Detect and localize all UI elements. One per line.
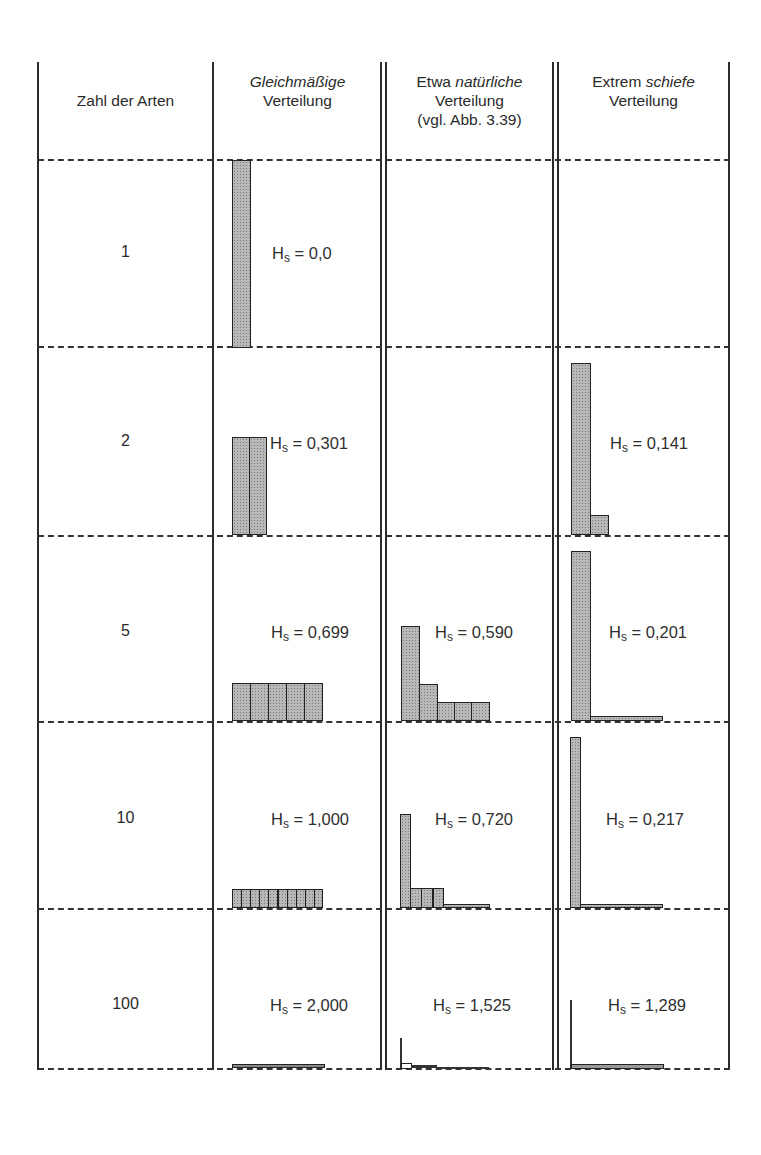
header-natural-line3: (vgl. Abb. 3.39) (417, 111, 521, 128)
hs-symbol: H (609, 623, 621, 641)
hs-subscript: s (445, 1003, 451, 1017)
hs-subscript: s (284, 251, 290, 265)
hs-uniform-5: Hs = 0,699 (271, 623, 349, 644)
column-divider-1 (212, 62, 214, 1070)
hs-subscript: s (282, 441, 288, 455)
natural-100-bars-tail (436, 1067, 489, 1069)
skewed-5-bar-tail (590, 716, 663, 721)
row-label-100: 100 (38, 995, 213, 1013)
natural-5-bar-5 (471, 702, 490, 721)
hs-subscript: s (447, 817, 453, 831)
skewed-2-bar-1 (571, 363, 591, 535)
header-natural: Etwa natürliche Verteilung (vgl. Abb. 3.… (386, 72, 553, 129)
header-skewed-italic: schiefe (646, 73, 695, 90)
hs-subscript: s (618, 817, 624, 831)
hs-subscript: s (283, 817, 289, 831)
hs-symbol: H (271, 623, 283, 641)
skewed-10-bars-tail (580, 904, 663, 908)
header-separator (38, 159, 730, 161)
skewed-5-bar-1 (571, 551, 591, 721)
hs-value: = 0,201 (632, 623, 688, 641)
hs-skewed-100: Hs = 1,289 (608, 996, 686, 1017)
hs-value: = 0,0 (295, 244, 332, 262)
hs-skewed-2: Hs = 0,141 (610, 434, 688, 455)
hs-value: = 0,301 (293, 434, 349, 452)
uniform-5-bar-2 (250, 683, 269, 721)
hs-subscript: s (283, 630, 289, 644)
hs-value: = 0,699 (294, 623, 350, 641)
hs-symbol: H (271, 810, 283, 828)
natural-5-bar-3 (437, 702, 455, 721)
column-divider-2a (380, 62, 382, 1070)
header-species-count: Zahl der Arten (38, 91, 213, 110)
skewed-100-bar-1 (570, 1000, 572, 1069)
hs-value: = 1,525 (456, 996, 512, 1014)
row-separator-3 (38, 721, 730, 723)
hs-value: = 0,720 (458, 810, 514, 828)
hs-natural-100: Hs = 1,525 (433, 996, 511, 1017)
hs-subscript: s (447, 630, 453, 644)
uniform-5-bar-4 (286, 683, 305, 721)
header-uniform: Gleichmäßige Verteilung (214, 72, 381, 110)
hs-value: = 1,289 (631, 996, 687, 1014)
skewed-2-bar-2 (590, 515, 609, 535)
header-natural-italic: natürliche (455, 73, 522, 90)
natural-5-bar-1 (401, 626, 420, 721)
uniform-5-bar-3 (268, 683, 287, 721)
uniform-5-bar-1 (232, 683, 251, 721)
hs-value: = 1,000 (294, 810, 350, 828)
row-separator-1 (38, 346, 730, 348)
hs-uniform-10: Hs = 1,000 (271, 810, 349, 831)
header-uniform-line2: Verteilung (263, 92, 332, 109)
skewed-10-bar-1 (570, 737, 581, 908)
hs-symbol: H (608, 996, 620, 1014)
natural-100-bars-mid (411, 1065, 437, 1068)
hs-symbol: H (272, 244, 284, 262)
header-skewed-line2: Verteilung (609, 92, 678, 109)
hs-symbol: H (270, 434, 282, 452)
uniform-5-bar-5 (304, 683, 323, 721)
row-label-1: 1 (38, 243, 213, 261)
row-label-10: 10 (38, 809, 213, 827)
natural-5-bar-2 (419, 684, 438, 721)
header-natural-normal: Etwa (417, 73, 456, 90)
header-skewed: Extrem schiefe Verteilung (558, 72, 729, 110)
row-separator-2 (38, 535, 730, 537)
hs-symbol: H (610, 434, 622, 452)
natural-10-bars-tail (443, 904, 490, 908)
header-uniform-italic: Gleichmäßige (250, 73, 346, 90)
hs-symbol: H (606, 810, 618, 828)
hs-value: = 2,000 (293, 996, 349, 1014)
hs-subscript: s (621, 630, 627, 644)
table-border-right (728, 62, 730, 1070)
header-skewed-normal: Extrem (592, 73, 645, 90)
uniform-2-bar-1 (232, 437, 250, 535)
hs-symbol: H (435, 810, 447, 828)
natural-5-bar-4 (454, 702, 472, 721)
hs-natural-10: Hs = 0,720 (435, 810, 513, 831)
hs-value: = 0,217 (629, 810, 685, 828)
natural-10-bars-mid (410, 888, 444, 908)
uniform-1-bar (232, 160, 251, 348)
hs-uniform-100: Hs = 2,000 (270, 996, 348, 1017)
hs-natural-5: Hs = 0,590 (435, 623, 513, 644)
hs-value: = 0,590 (458, 623, 514, 641)
skewed-100-bars-tail (571, 1064, 664, 1069)
column-divider-3b (557, 62, 559, 1070)
row-separator-4 (38, 908, 730, 910)
column-divider-3a (552, 62, 554, 1070)
column-divider-2b (385, 62, 387, 1070)
hs-symbol: H (270, 996, 282, 1014)
uniform-100-bars (232, 1064, 325, 1068)
row-label-5: 5 (38, 622, 213, 640)
header-species-count-text: Zahl der Arten (77, 92, 174, 109)
hs-subscript: s (282, 1003, 288, 1017)
hs-skewed-5: Hs = 0,201 (609, 623, 687, 644)
hs-value: = 0,141 (633, 434, 689, 452)
hs-uniform-1: Hs = 0,0 (272, 244, 332, 265)
hs-skewed-10: Hs = 0,217 (606, 810, 684, 831)
hs-subscript: s (622, 441, 628, 455)
uniform-2-bar-2 (249, 437, 267, 535)
hs-symbol: H (433, 996, 445, 1014)
row-label-2: 2 (38, 432, 213, 450)
